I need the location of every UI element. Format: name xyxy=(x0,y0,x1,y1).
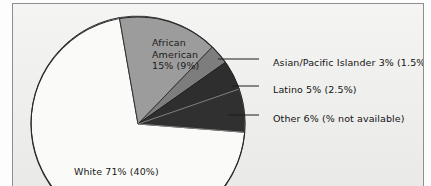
pie-chart xyxy=(13,4,424,186)
pie-callout-other: Other 6% (% not available) xyxy=(273,113,405,124)
pie-label-african-american: African American 15% (9%) xyxy=(152,37,218,72)
pie-label-white: White 71% (40%) xyxy=(74,166,204,178)
figure-frame: African American 15% (9%) White 71% (40%… xyxy=(12,3,424,186)
chart-page: African American 15% (9%) White 71% (40%… xyxy=(0,0,431,186)
pie-callout-asian-pacific-islander: Asian/Pacific Islander 3% (1.5%) xyxy=(273,57,424,68)
pie-callout-latino: Latino 5% (2.5%) xyxy=(273,84,357,95)
